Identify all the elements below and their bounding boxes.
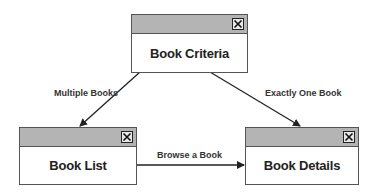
close-icon[interactable] [232,18,244,30]
titlebar [246,128,358,147]
edge-label-exactly-one-book: Exactly One Book [265,88,342,98]
close-icon[interactable] [343,131,355,143]
node-book-criteria: Book Criteria [131,14,248,73]
node-label: Book Criteria [132,34,247,72]
edge-multiple-books-arrow [80,72,140,126]
titlebar [132,15,247,34]
titlebar [20,128,136,147]
node-label: Book Details [246,147,358,184]
close-icon[interactable] [121,131,133,143]
edge-exactly-one-book-arrow [210,72,300,126]
edge-label-multiple-books: Multiple Books [54,88,118,98]
edge-label-browse-a-book: Browse a Book [157,150,222,160]
node-book-list: Book List [19,127,137,185]
node-book-details: Book Details [245,127,359,185]
node-label: Book List [20,147,136,184]
